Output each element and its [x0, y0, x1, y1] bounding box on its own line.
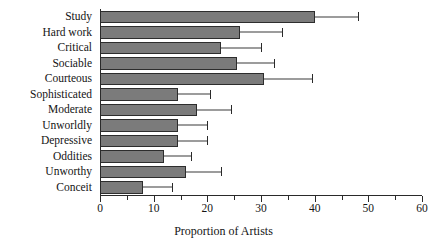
y-axis-label: Unworldly [0, 118, 96, 134]
bar-row [100, 40, 422, 56]
bar-row [100, 56, 422, 72]
x-tick-label: 50 [363, 203, 375, 215]
y-axis-label: Hard work [0, 25, 96, 41]
bar-row [100, 9, 422, 25]
error-bar-cap-high [358, 12, 359, 21]
error-bar-cap-high [210, 90, 211, 99]
error-bar-cap-high [221, 167, 222, 176]
bar-row [100, 87, 422, 103]
y-axis-label: Depressive [0, 133, 96, 149]
bar-row [100, 118, 422, 134]
error-bar-cap-high [207, 136, 208, 145]
bar-row [100, 25, 422, 41]
bar [100, 104, 197, 117]
bar-row [100, 133, 422, 149]
x-tick-label: 30 [255, 203, 267, 215]
bar [100, 57, 237, 70]
y-axis-label: Oddities [0, 149, 96, 165]
plot-area [100, 9, 422, 195]
error-bar-cap-high [274, 59, 275, 68]
error-bar-cap-high [261, 43, 262, 52]
error-bar-cap-high [207, 121, 208, 130]
bar [100, 42, 221, 55]
error-bar-cap-high [191, 152, 192, 161]
y-axis-category-labels: StudyHard workCriticalSociableCourteousS… [0, 9, 96, 195]
bars-layer [100, 9, 422, 195]
x-tick-minor [181, 196, 182, 200]
x-tick-label: 20 [202, 203, 214, 215]
bar [100, 73, 264, 86]
x-tick-minor [288, 196, 289, 200]
y-axis-label: Sociable [0, 56, 96, 72]
y-axis-label: Conceit [0, 180, 96, 196]
error-bar-cap-high [312, 74, 313, 83]
x-tick-minor [342, 196, 343, 200]
bar-row [100, 164, 422, 180]
x-tick-minor [234, 196, 235, 200]
error-bar-cap-high [231, 105, 232, 114]
bar [100, 166, 186, 179]
x-tick-label: 60 [416, 203, 428, 215]
y-axis-label: Sophisticated [0, 87, 96, 103]
bar [100, 119, 178, 132]
x-tick-label: 10 [148, 203, 160, 215]
bar [100, 135, 178, 148]
x-tick-label: 0 [97, 203, 103, 215]
y-axis-label: Courteous [0, 71, 96, 87]
bar-chart: StudyHard workCriticalSociableCourteousS… [0, 0, 447, 249]
bar [100, 150, 164, 163]
y-axis-label: Critical [0, 40, 96, 56]
bar [100, 88, 178, 101]
error-bar-cap-high [172, 183, 173, 192]
y-axis-label: Unworthy [0, 164, 96, 180]
y-axis-line [100, 9, 101, 195]
y-axis-label: Moderate [0, 102, 96, 118]
bar [100, 26, 240, 39]
bar [100, 181, 143, 194]
bar [100, 11, 315, 24]
error-bar-cap-high [282, 28, 283, 37]
x-axis-title: Proportion of Artists [0, 224, 447, 239]
bar-row [100, 102, 422, 118]
x-tick-minor [127, 196, 128, 200]
y-axis-label: Study [0, 9, 96, 25]
x-tick-minor [395, 196, 396, 200]
bar-row [100, 180, 422, 196]
bar-row [100, 149, 422, 165]
bar-row [100, 71, 422, 87]
x-tick-label: 40 [309, 203, 321, 215]
